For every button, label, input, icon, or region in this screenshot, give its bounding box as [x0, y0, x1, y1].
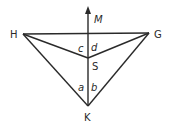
arrowhead-icon — [85, 6, 91, 14]
segment-hg — [23, 33, 149, 34]
angle-label-c: c — [78, 43, 84, 54]
label-m: M — [94, 14, 103, 25]
label-k: K — [84, 112, 91, 123]
label-h: H — [10, 29, 18, 40]
label-s: S — [92, 61, 98, 72]
label-g: G — [154, 29, 162, 40]
angle-label-a: a — [78, 82, 84, 93]
angle-label-b: b — [91, 82, 97, 93]
geometry-diagram: M H G S K c d a b — [0, 0, 172, 127]
angle-label-d: d — [91, 42, 98, 53]
